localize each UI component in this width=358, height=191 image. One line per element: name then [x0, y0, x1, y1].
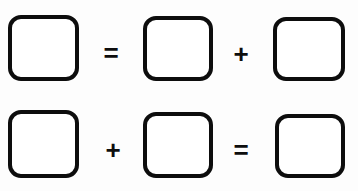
- puzzle-canvas: = + + =: [0, 0, 358, 191]
- answer-box-1-3[interactable]: [273, 17, 345, 81]
- answer-box-1-2[interactable]: [143, 16, 213, 81]
- equals-sign-icon: =: [98, 41, 124, 65]
- plus-sign-icon: +: [100, 138, 126, 162]
- equation-row-2: + =: [0, 95, 358, 191]
- answer-box-2-2[interactable]: [143, 112, 213, 178]
- equation-row-1: = +: [0, 0, 358, 96]
- answer-box-2-3[interactable]: [275, 114, 345, 178]
- equals-sign-icon: =: [228, 138, 254, 162]
- answer-box-2-1[interactable]: [8, 110, 79, 178]
- answer-box-1-1[interactable]: [8, 15, 79, 81]
- plus-sign-icon: +: [228, 42, 254, 66]
